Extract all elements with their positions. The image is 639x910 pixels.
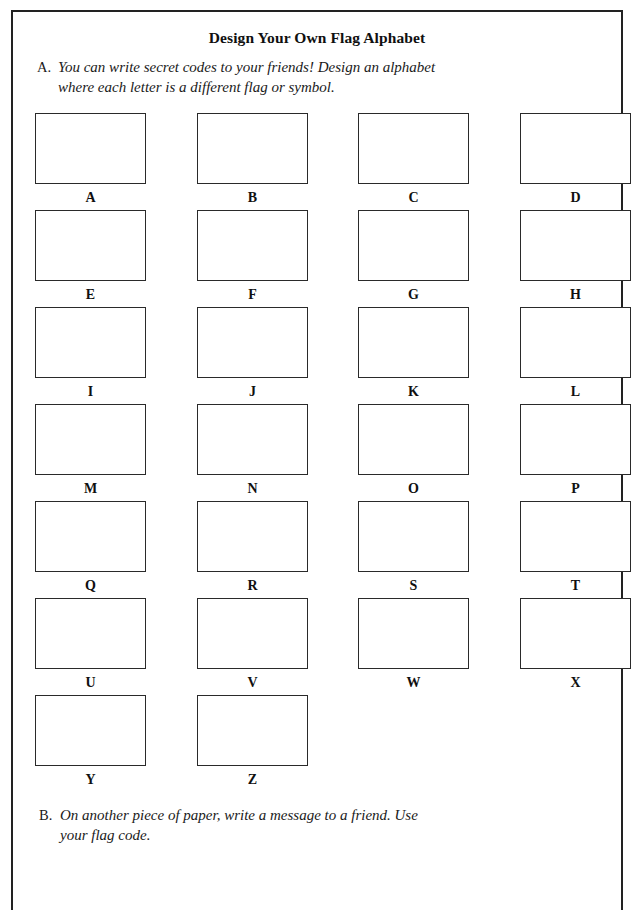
alphabet-cell-f: F	[192, 210, 349, 307]
alphabet-cell-n: N	[192, 404, 349, 501]
alphabet-cell-a: A	[35, 113, 192, 210]
alphabet-cell-e: E	[35, 210, 192, 307]
flag-drawing-box-p[interactable]	[520, 404, 631, 475]
cell-letter-label: D	[520, 184, 631, 205]
flag-drawing-box-v[interactable]	[197, 598, 308, 669]
flag-drawing-box-q[interactable]	[35, 501, 146, 572]
flag-drawing-box-g[interactable]	[358, 210, 469, 281]
alphabet-cell-k: K	[349, 307, 506, 404]
cell-letter-label: Z	[197, 766, 308, 787]
flag-drawing-box-u[interactable]	[35, 598, 146, 669]
flag-drawing-box-c[interactable]	[358, 113, 469, 184]
flag-drawing-box-b[interactable]	[197, 113, 308, 184]
flag-drawing-box-x[interactable]	[520, 598, 631, 669]
cell-letter-label: B	[197, 184, 308, 205]
worksheet-page: Design Your Own Flag Alphabet A. You can…	[11, 10, 623, 910]
cell-letter-label: M	[35, 475, 146, 496]
instruction-a-marker: A.	[36, 58, 58, 77]
alphabet-cell-i: I	[35, 307, 192, 404]
flag-drawing-box-e[interactable]	[35, 210, 146, 281]
alphabet-grid: ABCDEFGHIJKLMNOPQRSTUVWXYZ	[13, 113, 621, 792]
alphabet-cell-h: H	[506, 210, 639, 307]
instruction-a-line-2: where each letter is a different flag or…	[58, 78, 435, 98]
alphabet-cell-z: Z	[192, 695, 349, 792]
instruction-a-text: You can write secret codes to your frien…	[58, 58, 435, 98]
cell-letter-label: H	[520, 281, 631, 302]
flag-drawing-box-y[interactable]	[35, 695, 146, 766]
cell-letter-label: X	[520, 669, 631, 690]
flag-drawing-box-i[interactable]	[35, 307, 146, 378]
alphabet-row: UVWX	[35, 598, 621, 695]
cell-letter-label: Y	[35, 766, 146, 787]
cell-letter-label: P	[520, 475, 631, 496]
instruction-b: B. On another piece of paper, write a me…	[38, 806, 621, 846]
flag-drawing-box-k[interactable]	[358, 307, 469, 378]
alphabet-row: YZ	[35, 695, 621, 792]
cell-letter-label: V	[197, 669, 308, 690]
alphabet-cell-y: Y	[35, 695, 192, 792]
alphabet-row: ABCD	[35, 113, 621, 210]
alphabet-cell-u: U	[35, 598, 192, 695]
alphabet-row: IJKL	[35, 307, 621, 404]
page-title: Design Your Own Flag Alphabet	[13, 12, 621, 47]
cell-letter-label: O	[358, 475, 469, 496]
cell-letter-label: T	[520, 572, 631, 593]
alphabet-cell-p: P	[506, 404, 639, 501]
cell-letter-label: S	[358, 572, 469, 593]
cell-letter-label: A	[35, 184, 146, 205]
cell-letter-label: E	[35, 281, 146, 302]
flag-drawing-box-z[interactable]	[197, 695, 308, 766]
flag-drawing-box-s[interactable]	[358, 501, 469, 572]
flag-drawing-box-w[interactable]	[358, 598, 469, 669]
instruction-b-line-1: On another piece of paper, write a messa…	[60, 806, 418, 826]
cell-letter-label: N	[197, 475, 308, 496]
flag-drawing-box-m[interactable]	[35, 404, 146, 475]
alphabet-cell-m: M	[35, 404, 192, 501]
alphabet-row: MNOP	[35, 404, 621, 501]
instruction-b-line-2: your flag code.	[60, 826, 418, 846]
alphabet-cell-s: S	[349, 501, 506, 598]
alphabet-cell-o: O	[349, 404, 506, 501]
flag-drawing-box-o[interactable]	[358, 404, 469, 475]
instruction-b-marker: B.	[38, 806, 60, 825]
alphabet-cell-x: X	[506, 598, 639, 695]
alphabet-cell-r: R	[192, 501, 349, 598]
flag-drawing-box-h[interactable]	[520, 210, 631, 281]
cell-letter-label: J	[197, 378, 308, 399]
cell-letter-label: G	[358, 281, 469, 302]
cell-letter-label: F	[197, 281, 308, 302]
cell-letter-label: W	[358, 669, 469, 690]
cell-letter-label: R	[197, 572, 308, 593]
cell-letter-label: Q	[35, 572, 146, 593]
cell-letter-label: I	[35, 378, 146, 399]
alphabet-cell-v: V	[192, 598, 349, 695]
flag-drawing-box-n[interactable]	[197, 404, 308, 475]
alphabet-cell-w: W	[349, 598, 506, 695]
flag-drawing-box-f[interactable]	[197, 210, 308, 281]
flag-drawing-box-t[interactable]	[520, 501, 631, 572]
alphabet-cell-j: J	[192, 307, 349, 404]
flag-drawing-box-d[interactable]	[520, 113, 631, 184]
alphabet-row: QRST	[35, 501, 621, 598]
flag-drawing-box-j[interactable]	[197, 307, 308, 378]
alphabet-row: EFGH	[35, 210, 621, 307]
instruction-a: A. You can write secret codes to your fr…	[36, 58, 621, 98]
instruction-a-line-1: You can write secret codes to your frien…	[58, 58, 435, 78]
flag-drawing-box-a[interactable]	[35, 113, 146, 184]
alphabet-cell-d: D	[506, 113, 639, 210]
alphabet-cell-l: L	[506, 307, 639, 404]
flag-drawing-box-r[interactable]	[197, 501, 308, 572]
alphabet-cell-b: B	[192, 113, 349, 210]
flag-drawing-box-l[interactable]	[520, 307, 631, 378]
cell-letter-label: K	[358, 378, 469, 399]
cell-letter-label: C	[358, 184, 469, 205]
alphabet-cell-q: Q	[35, 501, 192, 598]
alphabet-cell-c: C	[349, 113, 506, 210]
cell-letter-label: L	[520, 378, 631, 399]
alphabet-cell-g: G	[349, 210, 506, 307]
alphabet-cell-t: T	[506, 501, 639, 598]
cell-letter-label: U	[35, 669, 146, 690]
instruction-b-text: On another piece of paper, write a messa…	[60, 806, 418, 846]
